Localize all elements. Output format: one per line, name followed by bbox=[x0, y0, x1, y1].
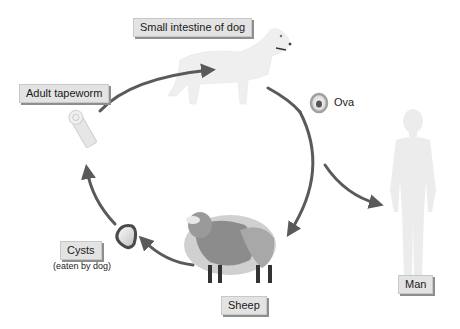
dog-silhouette bbox=[168, 29, 292, 104]
arrow-cyst-to-tapeworm bbox=[87, 170, 115, 224]
life-cycle-scene bbox=[0, 0, 460, 329]
adult-tapeworm-label: Adult tapeworm bbox=[19, 84, 109, 103]
ova-label: Ova bbox=[334, 96, 354, 108]
man-label: Man bbox=[398, 275, 433, 294]
tapeworm-illustration bbox=[66, 108, 98, 149]
arrow-ova-to-man bbox=[325, 165, 378, 204]
arrow-ova-to-sheep bbox=[290, 112, 313, 232]
cysts-label: Cysts bbox=[60, 241, 102, 260]
ova-icon bbox=[311, 94, 327, 112]
dog-label: Small intestine of dog bbox=[133, 18, 252, 37]
man-silhouette bbox=[390, 109, 436, 278]
cysts-note: (eaten by dog) bbox=[53, 261, 111, 271]
arrow-dog-to-ova bbox=[268, 88, 300, 112]
sheep-label: Sheep bbox=[221, 296, 267, 315]
sheep-illustration bbox=[184, 212, 276, 283]
cyst-icon bbox=[117, 226, 136, 248]
